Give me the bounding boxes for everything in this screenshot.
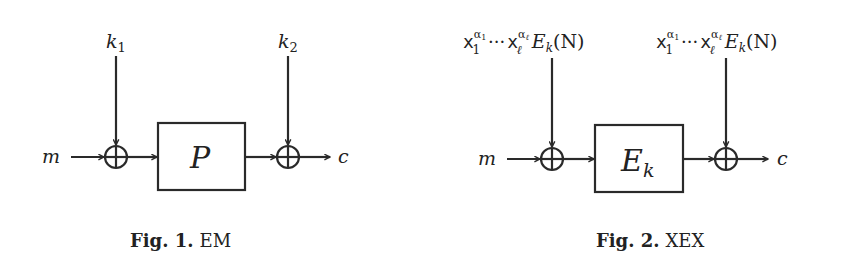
fig2-input-label: m: [478, 147, 496, 169]
fig2-output-label: c: [777, 147, 788, 169]
fig2-xex-diagram: m xα11···xαℓℓEk(N) Ek xα11···xαℓℓEk(N): [463, 28, 788, 251]
diagram-canvas: m k1 P k2 c Fig: [0, 0, 846, 257]
fig1-key1-label: k1: [106, 30, 126, 55]
fig2-right-mask-label: xα11···xαℓℓEk(N): [656, 28, 777, 57]
fig1-em-diagram: m k1 P k2 c Fig: [42, 30, 349, 251]
fig1-caption: Fig. 1.EM: [130, 230, 231, 251]
fig2-left-mask-label: xα11···xαℓℓEk(N): [463, 28, 584, 57]
fig1-input-label: m: [42, 145, 60, 167]
fig1-box-label: P: [189, 140, 211, 175]
fig1-xor2-icon: [277, 146, 299, 168]
fig1-xor1-icon: [105, 146, 127, 168]
fig2-xor1-icon: [541, 148, 563, 170]
fig2-xor2-icon: [715, 148, 737, 170]
fig1-output-label: c: [338, 145, 349, 167]
fig2-caption: Fig. 2.XEX: [596, 230, 704, 251]
fig1-key2-label: k2: [278, 30, 298, 55]
